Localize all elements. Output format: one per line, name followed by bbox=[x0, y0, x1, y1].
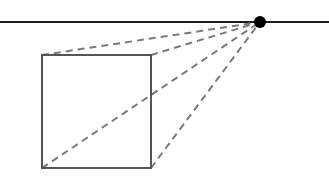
perspective-diagram bbox=[0, 0, 329, 179]
vanishing-point bbox=[254, 16, 266, 28]
background bbox=[0, 0, 329, 179]
